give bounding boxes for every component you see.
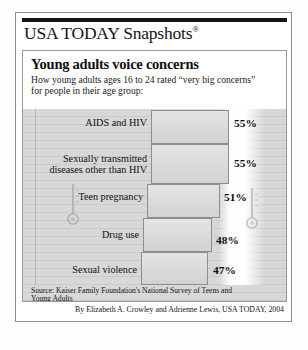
- usa-today-snapshot-card: USA TODAY Snapshots® Young adults voice …: [15, 12, 292, 322]
- bar-value-label: 47%: [213, 264, 236, 276]
- bar-category-label: Sexually transmitteddiseases other than …: [29, 153, 147, 176]
- bar-value-label: 48%: [216, 234, 239, 246]
- registered-trademark-icon: ®: [192, 24, 199, 34]
- bar-row: Sexually transmitteddiseases other than …: [23, 144, 286, 184]
- bar-row: Sexual violence 47%: [23, 252, 286, 285]
- bar-fill: [141, 252, 208, 285]
- source-attribution: Source: Kaiser Family Foundation's Natio…: [31, 287, 241, 302]
- byline: By Elizabeth A. Crowley and Adrienne Lew…: [75, 305, 284, 314]
- bar-category-label: Teen pregnancy: [35, 191, 143, 202]
- bar-chart: AIDS and HIV 55% Sexually transmitteddis…: [23, 109, 286, 285]
- masthead-title: USA TODAY Snapshots®: [24, 23, 286, 44]
- bar-fill: [143, 218, 212, 252]
- bar-value-label: 51%: [224, 191, 247, 203]
- bar-fill: [151, 110, 229, 144]
- masthead-rule: [22, 18, 287, 22]
- bar-value-label: 55%: [234, 157, 257, 169]
- bar-category-label: Sexual violence: [35, 264, 137, 275]
- bar-value-label: 55%: [234, 117, 257, 129]
- page-subtitle: How young adults ages 16 to 24 rated “ve…: [31, 74, 256, 96]
- bar-category-label: AIDS and HIV: [35, 117, 147, 128]
- bar-category-label: Drug use: [35, 229, 139, 240]
- chart-panel: Young adults voice concerns How young ad…: [22, 50, 287, 302]
- bar-fill: [151, 144, 229, 184]
- bar-row: Teen pregnancy 51%: [23, 184, 286, 218]
- bar-fill: [147, 184, 220, 218]
- bar-row: Drug use 48%: [23, 218, 286, 252]
- page-title: Young adults voice concerns: [31, 56, 199, 73]
- masthead-title-text: USA TODAY Snapshots: [24, 23, 192, 43]
- bar-row: AIDS and HIV 55%: [23, 109, 286, 144]
